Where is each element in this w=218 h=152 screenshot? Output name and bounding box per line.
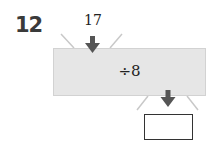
down-arrow-icon (161, 90, 176, 107)
down-arrow-icon (85, 36, 100, 53)
output-answer-box[interactable] (144, 114, 193, 140)
